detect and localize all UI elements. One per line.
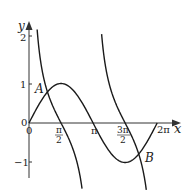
x-tick-3pi-half-den: 2 [120,135,126,145]
function-graph: y 2 1 0 −1 0 π 2 π 3π 2 2π x A B [0,0,186,192]
x-axis-label: x [174,121,182,136]
cot-curve-branch-2 [102,34,147,190]
point-a-label: A [34,82,44,96]
y-tick-label-1: 1 [20,79,26,90]
y-axis-arrow-icon [26,21,33,30]
cot-curve-branch-1 [37,30,82,189]
x-tick-pi-half-den: 2 [56,135,62,145]
y-axis-label: y [17,19,25,33]
x-tick-3pi-half-num: 3π [117,125,129,135]
y-tick-label-neg1: −1 [14,157,29,168]
graph-canvas: y 2 1 0 −1 0 π 2 π 3π 2 2π x A B [0,0,186,192]
point-b-label: B [144,151,154,165]
y-tick-label-2: 2 [20,32,26,43]
x-tick-2pi: 2π [157,124,170,135]
x-tick-pi: π [91,125,98,136]
x-tick-pi-half-num: π [56,125,62,135]
x-origin-label: 0 [26,125,32,136]
